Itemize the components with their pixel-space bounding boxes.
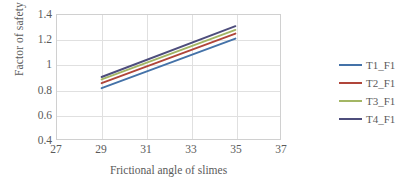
x-axis-tick-label: 29 xyxy=(95,143,107,155)
plot-area xyxy=(56,14,281,140)
series-line-t2_f1 xyxy=(102,34,236,84)
x-axis-tick-label: 31 xyxy=(140,143,152,155)
y-axis-tick-label: 0.6 xyxy=(38,109,52,121)
y-axis-tick-label: 1.4 xyxy=(38,8,52,20)
chart-legend: T1_F1T2_F1T3_F1T4_F1 xyxy=(339,56,405,128)
series-line-t3_f1 xyxy=(102,30,236,80)
legend-item-t4_f1[interactable]: T4_F1 xyxy=(339,110,405,128)
legend-swatch-icon xyxy=(339,100,362,103)
legend-swatch-icon xyxy=(339,118,362,121)
legend-swatch-icon xyxy=(339,64,362,67)
legend-item-label: T3_F1 xyxy=(366,96,395,107)
legend-item-label: T1_F1 xyxy=(366,60,395,71)
legend-item-label: T4_F1 xyxy=(366,114,395,125)
legend-item-t3_f1[interactable]: T3_F1 xyxy=(339,92,405,110)
y-axis-tick-label: 1 xyxy=(46,58,52,70)
legend-item-label: T2_F1 xyxy=(366,78,395,89)
series-line-t1_f1 xyxy=(102,39,236,89)
x-axis-tick-labels: 272931333537 xyxy=(0,143,405,159)
y-axis-tick-label: 0.8 xyxy=(38,84,52,96)
x-axis-title: Frictional angle of slimes xyxy=(56,164,281,176)
line-chart: Factor of safety 1.41.210.80.60.4 272931… xyxy=(0,0,405,188)
series-svg xyxy=(57,15,280,139)
legend-item-t2_f1[interactable]: T2_F1 xyxy=(339,74,405,92)
legend-item-t1_f1[interactable]: T1_F1 xyxy=(339,56,405,74)
y-axis-tick-labels: 1.41.210.80.60.4 xyxy=(22,0,52,188)
x-axis-tick-label: 27 xyxy=(50,143,62,155)
series-line-t4_f1 xyxy=(102,26,236,77)
y-axis-tick-label: 1.2 xyxy=(38,33,52,45)
x-axis-tick-label: 35 xyxy=(230,143,242,155)
x-axis-tick-label: 33 xyxy=(185,143,197,155)
series-layer xyxy=(57,15,280,139)
legend-swatch-icon xyxy=(339,82,362,85)
x-axis-tick-label: 37 xyxy=(275,143,287,155)
